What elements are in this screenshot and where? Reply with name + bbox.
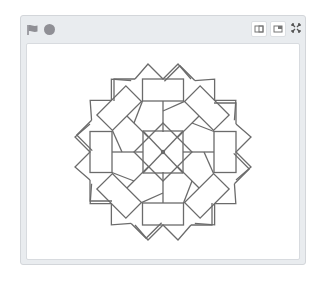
geometric-drawing (0, 0, 325, 283)
